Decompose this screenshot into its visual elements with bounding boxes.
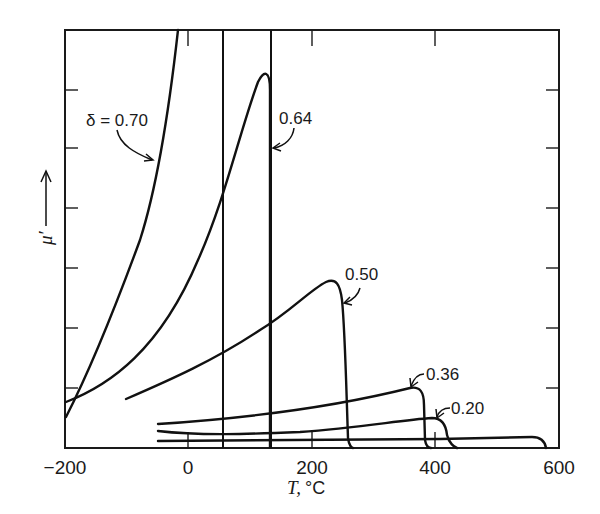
x-tick-label-400: 400: [419, 457, 451, 478]
label-0-20: 0.20: [451, 399, 484, 418]
x-tick-label-200: 200: [296, 457, 328, 478]
leader-0-36: [410, 374, 424, 387]
label-delta-0-70: δ = 0.70: [86, 111, 148, 130]
x-axis-label: T, °C: [287, 477, 325, 498]
label-0-36: 0.36: [426, 365, 459, 384]
leader-0-64: [273, 128, 294, 151]
curve-delta-0-70: [66, 30, 178, 417]
x-tick-label-minus200: −200: [44, 457, 87, 478]
label-0-50: 0.50: [345, 265, 378, 284]
x-ticks-top: [188, 30, 435, 46]
svg-text:°C: °C: [305, 478, 325, 498]
curve-delta-0-20: [158, 418, 457, 448]
label-0-64: 0.64: [279, 109, 312, 128]
leader-0-70: [117, 130, 153, 161]
x-tick-label-600: 600: [543, 457, 575, 478]
y-ticks-left: [65, 90, 78, 388]
svg-text:μ′: μ′: [35, 230, 56, 246]
y-axis-label: μ′: [35, 171, 56, 246]
x-tick-label-0: 0: [183, 457, 194, 478]
leader-0-20: [436, 408, 450, 418]
chart: δ = 0.70 0.64 0.50 0.36 0.20 −200 0 200 …: [0, 0, 600, 514]
y-ticks-right: [546, 90, 559, 388]
leader-0-50: [344, 288, 360, 305]
svg-text:T,: T,: [287, 477, 301, 498]
